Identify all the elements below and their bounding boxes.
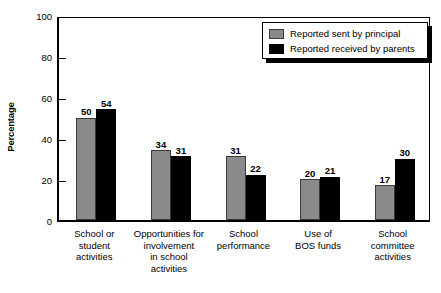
- bar-group: 3431: [151, 18, 191, 220]
- legend-item-0: Reported sent by principal: [269, 27, 427, 41]
- bar-0: [76, 118, 96, 221]
- bar-value-label: 30: [392, 148, 418, 158]
- y-axis-tick-label: 100: [20, 12, 52, 22]
- bar-1: [246, 175, 266, 220]
- y-axis-tick-label: 60: [20, 94, 52, 104]
- y-axis-tick: [59, 140, 66, 141]
- bar-0: [375, 185, 395, 220]
- y-axis-tick-label: 80: [20, 53, 52, 63]
- legend-label-1: Reported received by parents: [290, 44, 415, 54]
- y-axis-tick: [59, 181, 66, 182]
- y-axis-tick: [59, 99, 66, 100]
- legend-swatch-icon-gray: [269, 29, 284, 39]
- bar-value-label: 22: [243, 164, 269, 174]
- legend-swatch-icon-black: [269, 44, 284, 54]
- x-axis-label: Opportunities for involvement in school …: [132, 228, 207, 274]
- legend-item-1: Reported received by parents: [269, 42, 427, 56]
- bar-group: 5054: [76, 18, 116, 220]
- y-axis-tick-label: 20: [20, 176, 52, 186]
- bar-0: [151, 150, 171, 220]
- bar-group: 3122: [226, 18, 266, 220]
- y-axis-title: Percentage: [6, 82, 16, 172]
- bar-0: [300, 179, 320, 220]
- y-axis-tick: [59, 58, 66, 59]
- bar-value-label: 21: [317, 166, 343, 176]
- bar-1: [395, 159, 415, 221]
- bar-value-label: 31: [223, 146, 249, 156]
- bar-chart: Percentage 020406080100 5054343131222021…: [0, 0, 441, 293]
- x-axis-label: School committee activities: [355, 228, 430, 263]
- chart-legend: Reported sent by principal Reported rece…: [262, 22, 428, 59]
- bar-value-label: 31: [168, 146, 194, 156]
- legend-label-0: Reported sent by principal: [290, 29, 400, 39]
- y-axis-tick-label: 40: [20, 135, 52, 145]
- bar-1: [171, 156, 191, 220]
- x-axis-label: School or student activities: [57, 228, 132, 263]
- x-axis-label: School performance: [206, 228, 281, 251]
- bar-1: [96, 109, 116, 220]
- bar-1: [320, 177, 340, 220]
- x-axis-label: Use of BOS funds: [281, 228, 356, 251]
- bar-value-label: 54: [93, 99, 119, 109]
- y-axis-tick-label: 0: [20, 217, 52, 227]
